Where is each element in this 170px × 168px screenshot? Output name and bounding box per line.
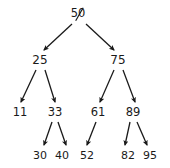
tree-edge-n25-to-n11: [21, 70, 36, 102]
tree-node-label: 11: [13, 105, 28, 119]
tree-edge-n50-to-n25: [44, 24, 72, 50]
tree-edge-n89-to-n95: [137, 122, 147, 145]
tree-node-11: 11: [13, 107, 28, 119]
tree-node-82: 82: [121, 150, 135, 161]
tree-edge-n75-to-n61: [100, 70, 114, 102]
tree-edges: [21, 24, 147, 145]
tree-node-50: 50: [71, 8, 86, 20]
tree-node-25: 25: [32, 54, 47, 66]
tree-node-40: 40: [55, 150, 69, 161]
tree-edge-n50-to-n75: [86, 24, 114, 50]
tree-edge-layer: [0, 0, 170, 168]
tree-node-label: 50: [71, 6, 86, 20]
tree-edge-n33-to-n40: [58, 122, 66, 145]
tree-node-label: 25: [32, 53, 47, 67]
tree-node-label: 33: [48, 105, 63, 119]
tree-node-label: 40: [55, 149, 69, 162]
tree-node-label: 82: [121, 149, 135, 162]
tree-edge-n75-to-n89: [123, 70, 135, 102]
tree-edge-n25-to-n33: [45, 70, 55, 102]
tree-edge-n33-to-n30: [44, 122, 52, 145]
tree-edge-n89-to-n82: [125, 122, 130, 145]
tree-node-label: 30: [33, 149, 47, 162]
tree-node-89: 89: [126, 107, 141, 119]
tree-node-61: 61: [91, 107, 106, 119]
tree-node-label: 52: [80, 149, 94, 162]
tree-edge-n61-to-n52: [87, 122, 96, 145]
tree-node-95: 95: [143, 150, 157, 161]
tree-node-33: 33: [48, 107, 63, 119]
binary-search-tree-diagram: 502575113361893040528295: [0, 0, 170, 168]
tree-node-label: 95: [143, 149, 157, 162]
tree-node-30: 30: [33, 150, 47, 161]
tree-node-52: 52: [80, 150, 94, 161]
tree-node-label: 61: [91, 105, 106, 119]
tree-node-label: 89: [126, 105, 141, 119]
tree-node-75: 75: [110, 54, 125, 66]
tree-node-label: 75: [110, 53, 125, 67]
